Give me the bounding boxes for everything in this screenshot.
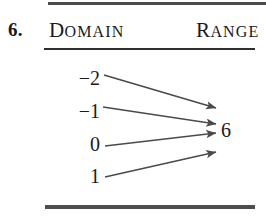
mapping-arrow-3 [105, 133, 216, 146]
mapping-diagram-figure: 6. DOMAIN RANGE −2 −1 0 1 6 [0, 0, 266, 223]
mapping-arrow-4 [105, 152, 216, 177]
bottom-divider-rule [45, 205, 255, 209]
mapping-arrow-2 [103, 107, 216, 124]
mapping-arrow-1 [104, 75, 216, 108]
mapping-arrows-group [0, 0, 266, 223]
